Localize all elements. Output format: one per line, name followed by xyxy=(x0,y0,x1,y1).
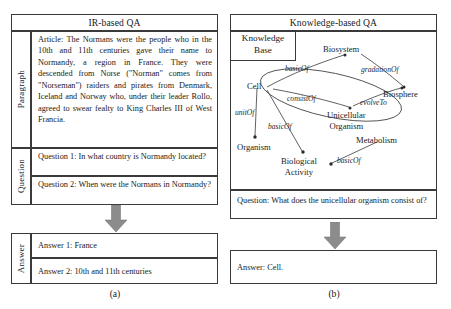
graph-node-biosphere-label: Biosphere xyxy=(383,89,418,99)
graph-node-cell-label: Cell xyxy=(247,81,261,91)
panel-b-title: Knowledge-based QA xyxy=(290,17,377,28)
answer-1-text: Answer 1: France xyxy=(38,241,97,250)
paragraph-article-text: Article: The Normans were the people who… xyxy=(38,35,212,124)
knowledge-graph-panel: Knowledge Base xyxy=(230,31,437,190)
kb-question-cell: Question: What does the unicellular orga… xyxy=(230,190,437,219)
graph-node-organism-label: Organism xyxy=(237,142,271,152)
kb-question-text: Question: What does the unicellular orga… xyxy=(237,196,427,205)
graph-node-metabolism: Metabolism xyxy=(356,135,397,146)
flow-arrow-down-a xyxy=(104,205,128,233)
row-label-question: Question xyxy=(11,148,31,205)
panel-b-caption-text: (b) xyxy=(328,288,339,299)
edge-text-2: gradationOf xyxy=(361,65,399,74)
graph-node-organism: Organism xyxy=(237,142,271,153)
graph-node-biosystem-label: Biosystem xyxy=(323,44,359,54)
row-label-answer: Answer xyxy=(11,233,31,284)
knowledge-base-label-line1: Knowledge xyxy=(231,33,295,45)
graph-node-biosphere: Biosphere xyxy=(383,89,418,100)
graph-edge-label-consistof: consistOf xyxy=(287,94,316,103)
edge-text-3: consistOf xyxy=(287,94,316,103)
panel-b-title-box: Knowledge-based QA xyxy=(230,14,437,31)
graph-edge-label-evolveto: evolveTo xyxy=(360,98,387,107)
edge-text-1: basicOf xyxy=(285,64,309,73)
panel-knowledge-based-qa: Knowledge-based QA Knowledge Base xyxy=(230,0,440,309)
graph-edge-label-gradationof: gradationOf xyxy=(361,65,399,74)
edge-text-4: evolveTo xyxy=(360,98,387,107)
graph-edge-label-basicof-metabolism: basicOf xyxy=(337,156,361,165)
graph-node-metabolism-label: Metabolism xyxy=(356,135,397,145)
row-label-paragraph: Paragraph xyxy=(11,31,31,148)
edge-text-7: basicOf xyxy=(337,156,361,165)
graph-node-biosystem: Biosystem xyxy=(323,44,359,55)
panel-a-caption-text: (a) xyxy=(110,288,121,299)
kb-answer-cell: Answer: Cell. xyxy=(230,250,437,284)
graph-node-biological-activity-label1: Biological xyxy=(281,156,317,167)
question-2-cell: Question 2: When were the Normans in Nor… xyxy=(31,176,218,205)
panel-a-title: IR-based QA xyxy=(89,17,141,28)
graph-node-unicellular-organism: Unicellular Organism xyxy=(327,110,366,131)
graph-edge-label-basicof-biological: basicOf xyxy=(268,122,292,131)
row-label-question-text: Question xyxy=(16,159,26,193)
graph-node-unicellular-organism-label2: Organism xyxy=(327,121,366,132)
panel-b-caption: (b) xyxy=(304,288,364,299)
graph-edge-label-unitof: unitOf xyxy=(235,108,254,117)
knowledge-base-box: Knowledge Base xyxy=(230,31,296,61)
question-1-cell: Question 1: In what country is Normandy … xyxy=(31,148,218,176)
graph-node-biological-activity: Biological Activity xyxy=(281,156,317,177)
edge-text-6: basicOf xyxy=(268,122,292,131)
panel-ir-based-qa: IR-based QA Paragraph Article: The Norma… xyxy=(11,0,221,309)
panel-a-title-box: IR-based QA xyxy=(11,14,218,31)
paragraph-article-cell: Article: The Normans were the people who… xyxy=(31,31,218,148)
graph-node-cell: Cell xyxy=(247,81,261,92)
answer-2-text: Answer 2: 10th and 11th centuries xyxy=(38,267,152,276)
knowledge-base-label-line2: Base xyxy=(231,45,295,57)
row-label-paragraph-text: Paragraph xyxy=(16,70,26,108)
graph-node-unicellular-organism-label1: Unicellular xyxy=(327,110,366,121)
row-label-answer-text: Answer xyxy=(16,244,26,273)
graph-node-biological-activity-label2: Activity xyxy=(281,167,317,178)
panel-a-caption: (a) xyxy=(85,288,145,299)
answer-2-cell: Answer 2: 10th and 11th centuries xyxy=(31,258,218,284)
answer-1-cell: Answer 1: France xyxy=(31,233,218,258)
question-2-text: Question 2: When were the Normans in Nor… xyxy=(38,180,211,189)
question-1-text: Question 1: In what country is Normandy … xyxy=(38,152,206,161)
edge-text-5: unitOf xyxy=(235,108,254,117)
graph-edge-label-basicof-biosystem: basicOf xyxy=(285,64,309,73)
flow-arrow-down-b xyxy=(323,222,347,250)
kb-answer-text: Answer: Cell. xyxy=(237,263,283,272)
